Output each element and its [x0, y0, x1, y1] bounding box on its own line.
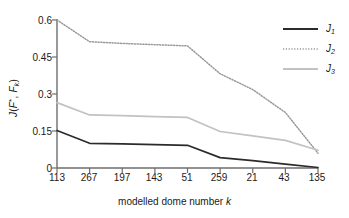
y-tick-label-2: 0.3	[18, 89, 52, 100]
y-tick-label-1: 0.15	[18, 126, 52, 137]
chart-figure: J(F*, Fk) modelled dome number k 0 0.15 …	[0, 0, 349, 218]
x-axis-label: modelled dome number k	[0, 196, 349, 207]
x-axis-label-text: modelled dome number	[118, 196, 226, 207]
legend-label-j3: J3	[326, 63, 335, 75]
series-line-J1	[57, 131, 318, 168]
plot-canvas	[0, 0, 349, 218]
y-tick-label-4: 0.6	[18, 15, 52, 26]
y-tick-label-3: 0.45	[18, 52, 52, 63]
data-series-layer	[57, 20, 318, 168]
y-axis-ticks	[52, 20, 57, 168]
x-axis-label-variable: k	[226, 196, 231, 207]
legend-label-j2: J2	[326, 43, 335, 55]
legend-label-j1: J1	[326, 23, 335, 35]
x-tick-label-8: 135	[297, 172, 337, 183]
legend-swatches	[283, 29, 318, 69]
series-line-J2	[57, 20, 318, 153]
